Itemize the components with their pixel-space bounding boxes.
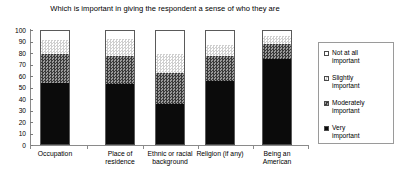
bar-segment[interactable] (262, 59, 292, 145)
y-axis-tick-text: 40 (2, 96, 26, 103)
legend-swatch-icon (324, 126, 329, 131)
legend-swatch-icon (324, 101, 329, 106)
y-axis-tick-text: 70 (2, 61, 26, 68)
legend-swatch-icon (324, 51, 329, 56)
y-axis-tick-mark (30, 30, 33, 31)
legend-item-label: Not at allimportant (332, 49, 360, 64)
legend-item[interactable]: Veryimportant (324, 124, 392, 139)
bar-column[interactable] (155, 30, 185, 145)
bar-segment[interactable] (105, 39, 135, 56)
bar-segment[interactable] (40, 40, 70, 54)
plot-area: 0102030405060708090100 OccupationPlace o… (0, 0, 310, 186)
x-axis-category-label-line: American (242, 158, 312, 166)
y-axis-tick-label: 0 (0, 142, 26, 149)
bar-segment[interactable] (105, 30, 135, 39)
y-axis-tick-label: 40 (0, 96, 26, 103)
legend-item-label-line: Very (332, 124, 360, 132)
legend-item-label-line: important (332, 132, 360, 140)
y-axis-tick-label: 90 (0, 38, 26, 45)
y-axis-tick-label: 20 (0, 119, 26, 126)
legend-item-label-line: important (332, 57, 360, 65)
y-axis-tick-text: 60 (2, 73, 26, 80)
legend-item[interactable]: Moderatelyimportant (324, 99, 392, 114)
bar-segment[interactable] (205, 30, 235, 45)
y-axis-tick-label: 30 (0, 107, 26, 114)
y-axis-tick-label: 100 (0, 27, 26, 34)
legend-item-label: Veryimportant (332, 124, 360, 139)
x-axis-tick-mark (87, 145, 88, 149)
bar-segment[interactable] (205, 81, 235, 145)
bar-segment[interactable] (155, 54, 185, 72)
y-axis-tick-mark (30, 53, 33, 54)
x-axis-line (30, 145, 308, 146)
x-axis-category-label-line: Occupation (20, 150, 90, 158)
legend-item[interactable]: Not at allimportant (324, 49, 392, 64)
bar-segment[interactable] (40, 30, 70, 40)
y-axis-tick-text: 10 (2, 130, 26, 137)
x-axis-tick-mark (253, 145, 254, 149)
legend-item-label-line: Not at all (332, 49, 360, 57)
legend-item[interactable]: Slightlyimportant (324, 74, 392, 89)
bar-segment[interactable] (262, 36, 292, 44)
bar-segment[interactable] (262, 44, 292, 59)
bar-segment[interactable] (155, 73, 185, 104)
legend-swatch-icon (324, 76, 329, 81)
y-axis-tick-label: 70 (0, 61, 26, 68)
legend-item-label-line: important (332, 82, 360, 90)
x-axis-category-label: Occupation (20, 150, 90, 158)
y-axis-tick-label: 80 (0, 50, 26, 57)
x-axis-tick-mark (143, 145, 144, 149)
y-axis-tick-text: 30 (2, 107, 26, 114)
x-axis-tick-mark (198, 145, 199, 149)
y-axis-tick-mark (30, 76, 33, 77)
y-axis-tick-text: 100 (2, 27, 26, 34)
y-axis-tick-text: 50 (2, 84, 26, 91)
bar-segment[interactable] (205, 56, 235, 80)
legend-item-label: Moderatelyimportant (332, 99, 365, 114)
legend-item-label-line: Moderately (332, 99, 365, 107)
x-axis-tick-mark (30, 145, 31, 149)
x-axis-category-label-line: Being an (242, 150, 312, 158)
y-axis-tick-text: 80 (2, 50, 26, 57)
bar-column[interactable] (105, 30, 135, 145)
bar-segment[interactable] (40, 83, 70, 145)
bar-segment[interactable] (205, 45, 235, 57)
bar-segment[interactable] (105, 84, 135, 145)
y-axis-tick-mark (30, 65, 33, 66)
y-axis-tick-label: 10 (0, 130, 26, 137)
y-axis-tick-mark (30, 99, 33, 100)
bar-segment[interactable] (155, 104, 185, 145)
y-axis-tick-label: 50 (0, 84, 26, 91)
y-axis-tick-label: 60 (0, 73, 26, 80)
stacked-bar-chart: Which is important in giving the respond… (0, 0, 399, 186)
y-axis-tick-mark (30, 88, 33, 89)
y-axis-tick-mark (30, 111, 33, 112)
y-axis-tick-text: 0 (2, 142, 26, 149)
legend-item-label-line: Slightly (332, 74, 360, 82)
bar-segment[interactable] (40, 54, 70, 83)
chart-legend: Not at allimportantSlightlyimportantMode… (318, 42, 394, 144)
y-axis-tick-text: 90 (2, 38, 26, 45)
bar-column[interactable] (262, 30, 292, 145)
legend-item-label: Slightlyimportant (332, 74, 360, 89)
y-axis-tick-mark (30, 134, 33, 135)
y-axis-tick-text: 20 (2, 119, 26, 126)
x-axis-tick-mark (308, 145, 309, 149)
bar-segment[interactable] (105, 56, 135, 84)
x-axis-category-label-line: background (135, 158, 205, 166)
bar-segment[interactable] (155, 30, 185, 54)
bar-column[interactable] (205, 30, 235, 145)
y-axis-tick-mark (30, 42, 33, 43)
bar-column[interactable] (40, 30, 70, 145)
x-axis-category-label: Being anAmerican (242, 150, 312, 167)
legend-item-label-line: important (332, 107, 365, 115)
y-axis-tick-mark (30, 122, 33, 123)
